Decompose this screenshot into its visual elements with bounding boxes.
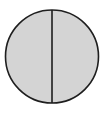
- diagram-canvas: [0, 0, 104, 113]
- halved-circle-figure: [0, 0, 104, 113]
